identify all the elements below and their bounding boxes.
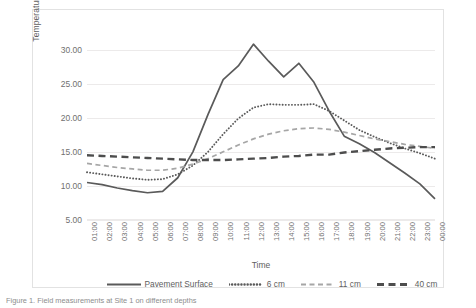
legend-label: Pavement Surface bbox=[145, 279, 213, 289]
x-axis-tick-label: 15:00 bbox=[302, 222, 311, 241]
x-axis-tick-label: 09:00 bbox=[211, 222, 220, 241]
x-axis-tick-label: 12:00 bbox=[257, 222, 266, 241]
x-axis-tick-label: 11:00 bbox=[242, 222, 251, 240]
y-axis-tick-label: 30.00 bbox=[61, 45, 82, 55]
legend-label: 40 cm bbox=[415, 279, 438, 289]
y-axis-tick-label: 20.00 bbox=[61, 113, 82, 123]
legend-swatch bbox=[377, 280, 411, 289]
x-axis-tick-labels: 01:0002:0003:0004:0005:0006:0007:0008:00… bbox=[87, 222, 435, 258]
y-axis-title: Temperature (C) bbox=[31, 0, 41, 70]
x-axis-tick-label: 21:00 bbox=[393, 222, 402, 241]
legend-item[interactable]: 11 cm bbox=[301, 279, 361, 289]
x-axis-tick-label: 02:00 bbox=[105, 222, 114, 241]
x-axis-tick-label: 14:00 bbox=[287, 222, 296, 241]
x-axis-tick-label: 05:00 bbox=[151, 222, 160, 241]
legend-swatch bbox=[229, 280, 263, 289]
series-layer bbox=[87, 36, 435, 220]
legend-label: 6 cm bbox=[267, 279, 285, 289]
plot-area: 5.0010.0015.0020.0025.0030.00 bbox=[87, 36, 435, 220]
legend-item[interactable]: 40 cm bbox=[377, 279, 438, 289]
x-axis-tick-label: 23:00 bbox=[423, 222, 432, 241]
legend-swatch bbox=[301, 280, 335, 289]
chart-frame: Temperature (C) 5.0010.0015.0020.0025.00… bbox=[32, 9, 444, 288]
x-axis-tick-label: 10:00 bbox=[226, 222, 235, 241]
gridline bbox=[87, 220, 435, 221]
x-axis-tick-label: 08:00 bbox=[196, 222, 205, 241]
x-axis-tick-label: 17:00 bbox=[332, 222, 341, 241]
x-axis-tick-label: 06:00 bbox=[166, 222, 175, 241]
x-axis-tick-label: 20:00 bbox=[378, 222, 387, 241]
x-axis-tick-label: 19:00 bbox=[363, 222, 372, 241]
x-axis-tick-label: 03:00 bbox=[120, 222, 129, 241]
figure-caption: Figure 1. Field measurements at Site 1 o… bbox=[6, 296, 470, 306]
legend-item[interactable]: 6 cm bbox=[229, 279, 285, 289]
x-axis-tick-label: 01:00 bbox=[90, 222, 99, 241]
x-axis-title: Time bbox=[87, 260, 435, 270]
y-axis-tick-label: 10.00 bbox=[61, 181, 82, 191]
legend-swatch bbox=[107, 280, 141, 289]
x-axis-tick-label: 07:00 bbox=[181, 222, 190, 241]
legend-item[interactable]: Pavement Surface bbox=[107, 279, 213, 289]
figure-container: Temperature (C) 5.0010.0015.0020.0025.00… bbox=[0, 0, 476, 308]
x-axis-tick-label: 04:00 bbox=[136, 222, 145, 241]
series-line bbox=[87, 104, 435, 180]
chart-legend: Pavement Surface6 cm11 cm40 cm bbox=[73, 276, 471, 292]
x-axis-tick-label: 13:00 bbox=[272, 222, 281, 241]
x-axis-tick-label: 16:00 bbox=[317, 222, 326, 241]
legend-label: 11 cm bbox=[339, 279, 361, 289]
x-axis-tick-label: 18:00 bbox=[347, 222, 356, 241]
x-axis-tick-label: 00:00 bbox=[438, 222, 447, 241]
y-axis-tick-label: 15.00 bbox=[61, 147, 82, 157]
series-line bbox=[87, 44, 435, 199]
y-axis-tick-label: 25.00 bbox=[61, 79, 82, 89]
x-axis-tick-label: 22:00 bbox=[408, 222, 417, 241]
series-line bbox=[87, 128, 435, 170]
y-axis-tick-label: 5.00 bbox=[65, 215, 82, 225]
